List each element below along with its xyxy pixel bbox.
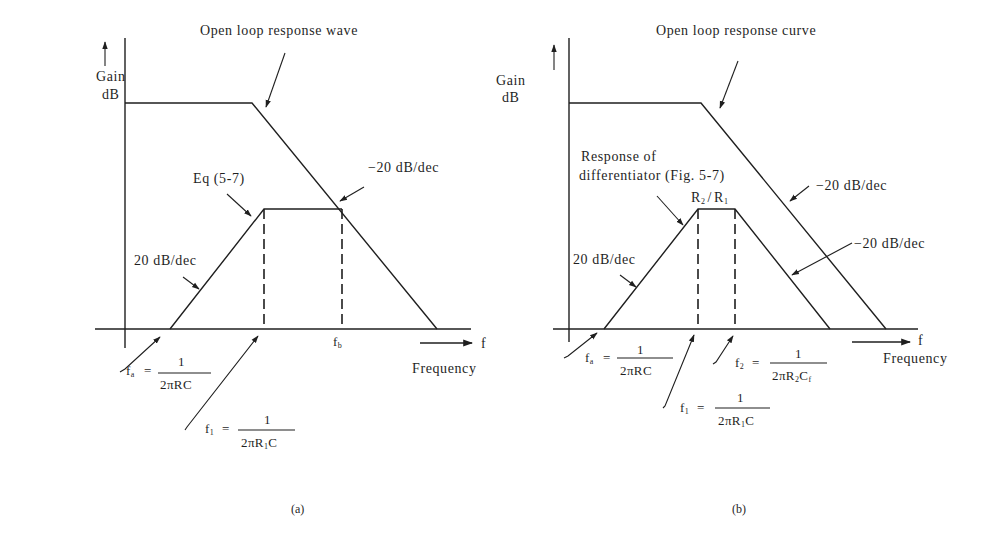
- gain-ratio-label: R2/R1: [691, 190, 729, 206]
- svg-text:1: 1: [178, 354, 185, 369]
- open-loop-label: Open loop response wave: [200, 23, 358, 38]
- differentiator-response-curve: [604, 209, 830, 329]
- panel-b: Gain dB Open loop response curve Respons…: [496, 23, 948, 516]
- fall-slope-pointer-arrow-icon: [340, 187, 364, 201]
- differentiator-pointer-arrow-icon: [657, 196, 683, 225]
- svg-text:fa: fa: [585, 350, 594, 366]
- x-axis-symbol-f: f: [918, 333, 923, 348]
- open-loop-fall-slope-label: −20 dB/dec: [816, 178, 887, 193]
- rise-slope-pointer-arrow-icon: [183, 277, 199, 289]
- bode-diagram-figure: Gain dB Open loop response wave Eq (5-7)…: [0, 0, 986, 542]
- fa-formula: fa = 1 2πRC: [126, 354, 211, 392]
- differentiator-label-line2: differentiator (Fig. 5-7): [579, 168, 725, 184]
- eq-5-7-label: Eq (5-7): [193, 171, 245, 187]
- fb-label: fb: [333, 334, 342, 350]
- svg-text:=: =: [144, 363, 152, 378]
- open-loop-pointer-arrow-icon: [266, 53, 285, 107]
- panel-a: Gain dB Open loop response wave Eq (5-7)…: [95, 23, 486, 516]
- svg-text:=: =: [222, 421, 230, 436]
- open-loop-curve: [125, 103, 437, 329]
- diff-fall-slope-label: −20 dB/dec: [854, 236, 925, 251]
- differentiator-label-line1: Response of: [581, 149, 656, 164]
- differentiator-response-curve: [170, 209, 342, 329]
- fall-slope-label: −20 dB/dec: [368, 160, 439, 175]
- open-loop-fall-slope-pointer-arrow-icon: [790, 186, 809, 201]
- diff-fall-slope-pointer-arrow-icon: [792, 243, 852, 275]
- f1-pointer-arrow-icon: [185, 336, 258, 430]
- svg-text:2πR1C: 2πR1C: [241, 435, 277, 451]
- svg-text:2πRC: 2πRC: [160, 377, 192, 392]
- rise-slope-label: 20 dB/dec: [573, 252, 636, 267]
- x-axis-symbol-f: f: [481, 336, 486, 351]
- rise-slope-label: 20 dB/dec: [134, 253, 197, 268]
- caption-a: (a): [291, 502, 304, 516]
- svg-text:fa: fa: [126, 363, 135, 379]
- svg-text:1: 1: [264, 412, 271, 427]
- svg-text:1: 1: [637, 342, 644, 357]
- open-loop-curve: [569, 103, 886, 329]
- caption-b: (b): [732, 502, 746, 516]
- rise-slope-pointer-arrow-icon: [620, 275, 636, 287]
- svg-text:1: 1: [737, 390, 744, 405]
- svg-text:2πR2Cf: 2πR2Cf: [772, 368, 812, 384]
- open-loop-pointer-arrow-icon: [720, 61, 738, 108]
- f2-formula: f2 = 1 2πR2Cf: [735, 346, 827, 384]
- eq-pointer-arrow-icon: [227, 194, 251, 216]
- svg-text:2πR1C: 2πR1C: [718, 413, 754, 429]
- y-axis-label-db: dB: [502, 90, 520, 105]
- svg-text:=: =: [603, 350, 611, 365]
- f1-formula: f1 = 1 2πR1C: [680, 390, 770, 429]
- svg-text:f1: f1: [680, 400, 689, 416]
- open-loop-label: Open loop response curve: [656, 23, 816, 38]
- y-axis-label-gain: Gain: [496, 73, 526, 88]
- svg-text:=: =: [752, 355, 760, 370]
- svg-text:1: 1: [795, 346, 802, 361]
- x-axis-label-frequency: Frequency: [412, 361, 477, 376]
- f1-pointer-arrow-icon: [663, 335, 694, 408]
- x-axis-label-frequency: Frequency: [883, 351, 948, 366]
- svg-text:f1: f1: [205, 421, 214, 437]
- f1-formula: f1 = 1 2πR1C: [205, 412, 295, 451]
- fa-formula: fa = 1 2πRC: [585, 342, 673, 378]
- y-axis-label-db: dB: [102, 87, 120, 102]
- svg-text:2πRC: 2πRC: [620, 363, 652, 378]
- svg-text:f2: f2: [735, 355, 744, 371]
- svg-text:=: =: [697, 400, 705, 415]
- f2-pointer-arrow-icon: [713, 336, 733, 364]
- y-axis-label-gain: Gain: [96, 69, 126, 84]
